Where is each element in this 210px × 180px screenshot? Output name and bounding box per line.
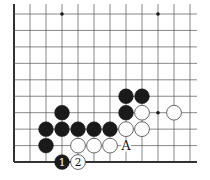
black-stone: [135, 89, 150, 104]
black-stone: [103, 122, 118, 137]
white-stone: [135, 122, 150, 137]
black-stone: [39, 122, 54, 137]
black-stone: [119, 89, 134, 104]
white-stone: [103, 138, 118, 153]
point-label: A: [120, 138, 131, 153]
star-point: [156, 12, 160, 16]
move-number-label: 2: [75, 156, 82, 168]
white-stone: [135, 105, 150, 120]
black-stone: 1: [55, 155, 70, 170]
go-board-diagram: 12 A: [0, 0, 210, 180]
black-stone: [39, 138, 54, 153]
board-markers: A: [120, 138, 131, 153]
black-stone: [119, 105, 134, 120]
white-stone: [167, 105, 182, 120]
black-stone: [71, 122, 86, 137]
white-stone: [71, 138, 86, 153]
star-point: [156, 111, 160, 115]
white-stone: 2: [71, 155, 86, 170]
move-number-label: 1: [59, 156, 66, 168]
black-stone: [55, 122, 70, 137]
black-stone: [55, 105, 70, 120]
black-stone: [87, 122, 102, 137]
grid-lines: [14, 4, 197, 162]
white-stone: [87, 138, 102, 153]
white-stone: [119, 122, 134, 137]
star-point: [60, 12, 64, 16]
